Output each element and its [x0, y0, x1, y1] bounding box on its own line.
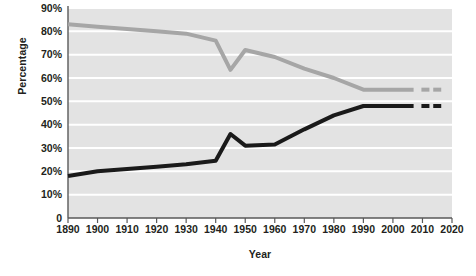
plot-background — [68, 8, 452, 218]
line-chart: Percentage Year 010%20%30%40%50%60%70%80… — [0, 0, 476, 276]
plot-area — [0, 0, 476, 276]
